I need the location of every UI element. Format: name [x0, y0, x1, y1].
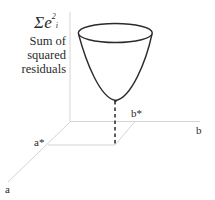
y-axis-label-line-2: squared: [4, 48, 66, 62]
diagram-canvas: Σe2i Sum of squared residuals b* b a* a: [0, 0, 215, 200]
y-axis-label-line-3: residuals: [4, 62, 66, 76]
a-star-label: a*: [34, 136, 44, 148]
a-axis: [8, 122, 70, 182]
y-axis-label-line-1: Sum of: [4, 34, 66, 48]
a-axis-label: a: [5, 183, 10, 195]
b-star-label: b*: [131, 107, 142, 119]
error-bowl-rim: [78, 24, 152, 43]
error-bowl-surface: [79, 34, 153, 101]
y-axis-label: Σe2i Sum of squared residuals: [4, 14, 66, 76]
b-star-line: [115, 122, 135, 146]
sum-squared-residuals-symbol: Σe2i: [4, 14, 66, 34]
minimum-point: [114, 100, 116, 102]
b-axis-label: b: [196, 124, 202, 136]
